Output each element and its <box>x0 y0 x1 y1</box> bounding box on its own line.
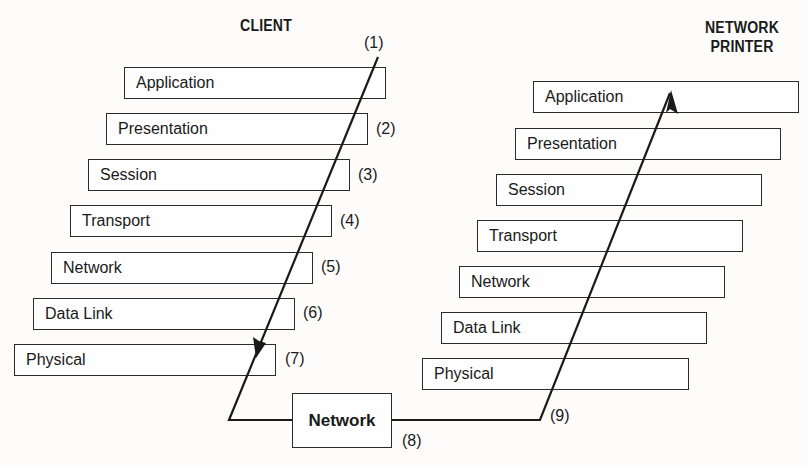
step-4: (4) <box>340 212 360 230</box>
step-7: (7) <box>285 350 305 368</box>
step-9: (9) <box>550 407 570 425</box>
arrow-up-icon <box>666 90 678 114</box>
step-8: (8) <box>402 432 422 450</box>
network-medium-label: Network <box>308 411 375 431</box>
step-1: (1) <box>364 34 384 52</box>
data-flow-path <box>0 0 808 466</box>
network-medium-box: Network <box>292 393 392 448</box>
step-3: (3) <box>358 166 378 184</box>
step-5: (5) <box>321 258 341 276</box>
step-6: (6) <box>303 304 323 322</box>
step-2: (2) <box>376 120 396 138</box>
